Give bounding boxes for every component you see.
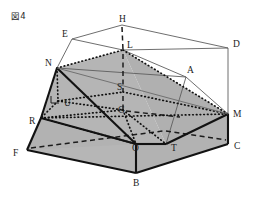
edge-E-N [57, 39, 72, 68]
edge-L-D [123, 48, 228, 50]
vertex-label-a: A [187, 65, 194, 75]
vertex-label-e: E [62, 29, 68, 39]
edge-E-L [72, 39, 123, 50]
vertex-label-n: N [45, 58, 52, 68]
vertex-label-g: G [118, 105, 125, 115]
geometry-diagram: HEDLNASUGMRCTOFB [0, 0, 253, 197]
vertex-label-f: F [13, 148, 18, 158]
vertex-label-b: B [133, 178, 139, 188]
vertex-label-l: L [127, 40, 133, 50]
vertex-label-c: C [234, 141, 240, 151]
vertex-label-t: T [171, 143, 177, 153]
vertex-label-u: U [64, 98, 71, 108]
vertex-label-m: M [233, 109, 242, 119]
edge-H-L-axis [122, 27, 123, 50]
vertex-label-r: R [29, 116, 36, 126]
vertex-label-d: D [233, 39, 240, 49]
vertex-label-h: H [119, 14, 126, 24]
vertex-label-o: O [132, 143, 139, 153]
figure-container: 図4 [0, 0, 253, 197]
edge-E-H [72, 25, 122, 39]
vertex-label-s: S [117, 82, 122, 92]
edge-H-D [122, 25, 228, 48]
